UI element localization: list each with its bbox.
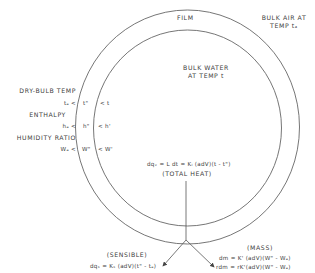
bulk-water-line1: BULK WATER	[176, 64, 236, 72]
inner-film-boundary	[94, 30, 282, 226]
humidity-water: < W'	[98, 145, 113, 153]
bulk-water-label: BULK WATER AT TEMP t	[176, 64, 236, 80]
total-heat-equation: dqᵥ = L dt = Kₗ (adV)(t - t")	[147, 160, 231, 168]
enthalpy-film: h"	[83, 122, 90, 130]
bulk-air-label: BULK AIR AT TEMP tₐ	[255, 14, 313, 30]
bulk-air-line1: BULK AIR AT	[255, 14, 313, 22]
bulk-water-line2: AT TEMP t	[176, 72, 236, 80]
enthalpy-title: ENTHALPY	[0, 111, 66, 119]
enthalpy-air: hₐ <	[50, 122, 76, 130]
sensible-equation: dqₛ = Kₛ (adV)(t" - tₐ)	[90, 262, 156, 270]
dry-bulb-title: DRY-BULB TEMP	[0, 87, 76, 95]
film-label: FILM	[177, 14, 194, 22]
dry-bulb-air: tₐ <	[50, 99, 76, 107]
humidity-title: HUMIDITY RATIO	[0, 134, 76, 142]
sensible-arrow	[163, 240, 186, 266]
humidity-air: Wₐ <	[50, 145, 76, 153]
total-heat-label: (TOTAL HEAT)	[150, 170, 224, 178]
mass-label: (MASS)	[235, 244, 285, 252]
humidity-film: W"	[82, 145, 91, 153]
bulk-air-line2: TEMP tₐ	[255, 22, 313, 30]
mass-equation-1: dm = K' (adV)(W" - Wₐ)	[219, 254, 291, 262]
dry-bulb-water: < t	[100, 99, 110, 107]
mass-equation-2: rdm = rK'(adV)(W" - Wₐ)	[216, 263, 291, 271]
sensible-label: (SENSIBLE)	[95, 251, 159, 259]
dry-bulb-film: t"	[83, 99, 88, 107]
mass-arrow	[186, 240, 214, 267]
enthalpy-water: < h'	[98, 122, 111, 130]
